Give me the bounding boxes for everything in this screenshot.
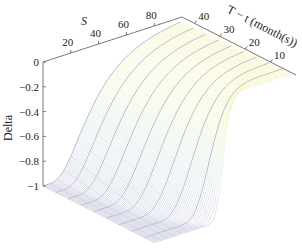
- tick-mark: [271, 59, 273, 62]
- s-tick-label: 80: [146, 9, 158, 21]
- t-tick-label: 30: [223, 23, 235, 35]
- delta-tick-label: −1: [27, 180, 39, 192]
- delta-tick-label: −0.8: [19, 155, 39, 167]
- t-tick-label: 10: [274, 49, 286, 61]
- delta-axis-title: Delta: [1, 114, 15, 141]
- tick-mark: [245, 46, 247, 49]
- delta-axis-ticks: 0−0.2−0.4−0.6−0.8−1: [19, 56, 46, 192]
- surface-plot: 20406080 10203040 0−0.2−0.4−0.6−0.8−1 S …: [0, 0, 302, 250]
- delta-tick-label: 0: [34, 56, 40, 68]
- s-tick-label: 40: [90, 27, 102, 39]
- t-tick-label: 40: [198, 10, 210, 22]
- tick-mark: [220, 33, 222, 36]
- s-tick-label: 60: [118, 18, 130, 30]
- t-tick-label: 20: [249, 36, 261, 48]
- s-tick-label: 20: [62, 36, 74, 48]
- delta-tick-label: −0.6: [19, 130, 39, 142]
- tick-mark: [195, 20, 197, 23]
- delta-tick-label: −0.4: [19, 106, 39, 118]
- s-axis-title: S: [81, 14, 87, 28]
- t-axis-title: T − t (month(s)): [225, 2, 300, 50]
- delta-tick-label: −0.2: [19, 81, 39, 93]
